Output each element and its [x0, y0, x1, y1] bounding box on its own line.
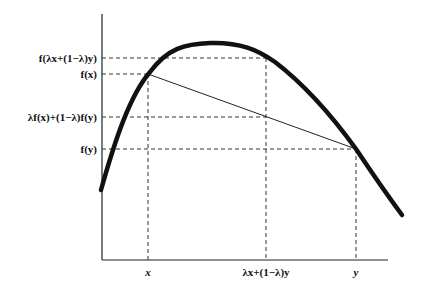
label-mix: λx+(1−λ)y [242, 266, 290, 279]
label-f-x: f(x) [81, 68, 98, 81]
concavity-diagram: f(λx+(1−λ)y) f(x) λf(x)+(1−λ)f(y) f(y) x… [0, 0, 421, 291]
label-x: x [144, 266, 151, 278]
label-f-y: f(y) [81, 143, 98, 156]
label-y: y [352, 266, 359, 278]
label-chord: λf(x)+(1−λ)f(y) [28, 111, 97, 124]
label-f-mix: f(λx+(1−λ)y) [39, 52, 97, 65]
concave-curve [101, 43, 402, 215]
